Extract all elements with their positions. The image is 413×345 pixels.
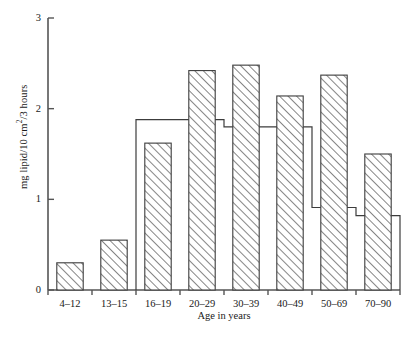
x-axis-tick-label: 40–49 — [277, 299, 303, 310]
plot-area: 0123 4–1213–1516–1920–2930–3940–4950–697… — [48, 18, 400, 290]
y-axis-label: mg lipid/10 cm2/3 hours — [15, 37, 29, 237]
x-axis-tick-label: 4–12 — [60, 299, 81, 310]
y-axis-label-superscript: 2 — [15, 120, 24, 124]
histogram-bar — [365, 154, 391, 290]
histogram-bar — [145, 143, 171, 290]
x-axis-tick-label: 20–29 — [189, 299, 215, 310]
histogram-chart — [48, 18, 400, 290]
x-axis-tick-label: 16–19 — [145, 299, 171, 310]
histogram-bar — [233, 65, 259, 290]
histogram-bar — [101, 240, 127, 290]
y-axis-label-prefix: mg lipid/10 cm — [18, 123, 29, 189]
y-axis-tick-label: 2 — [36, 103, 41, 114]
figure: mg lipid/10 cm2/3 hours 0123 4–1213–1516… — [0, 0, 413, 345]
histogram-bar — [277, 96, 303, 290]
hatched-bar-series — [57, 65, 391, 290]
x-axis-tick-label: 70–90 — [365, 299, 391, 310]
histogram-bar — [57, 263, 83, 290]
y-axis-tick-label: 3 — [36, 13, 41, 24]
y-axis-tick-label: 1 — [36, 194, 41, 205]
histogram-bar — [189, 71, 215, 290]
open-outline-series — [136, 120, 400, 290]
x-axis-tick-label: 13–15 — [101, 299, 127, 310]
x-axis-tick-label: 50–69 — [321, 299, 347, 310]
y-axis-label-suffix: /3 hours — [18, 85, 29, 120]
x-axis-tick-label: 30–39 — [233, 299, 259, 310]
y-axis-tick-label: 0 — [36, 285, 41, 296]
open-outline-path — [136, 120, 400, 290]
histogram-bar — [321, 75, 347, 290]
x-axis-label: Age in years — [48, 310, 400, 321]
